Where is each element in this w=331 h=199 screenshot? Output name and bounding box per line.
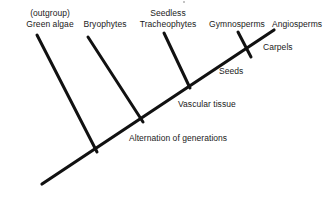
taxon-label-gymnosperms: Gymnosperms — [209, 19, 265, 30]
taxon-line-bryophytes: Bryophytes — [83, 19, 126, 30]
branch-green-algae — [37, 35, 97, 152]
taxon-line-angiosperms: Angiosperms — [272, 19, 322, 30]
taxon-label-bryophytes: Bryophytes — [83, 19, 126, 30]
taxon-line-gymnosperms: Gymnosperms — [209, 19, 265, 30]
trait-label-vascular-tissue: Vascular tissue — [178, 99, 236, 110]
taxon-line-green-algae: Green algae — [26, 19, 73, 30]
branch-bryophytes — [88, 37, 143, 122]
taxon-label-green-algae: (outgroup) Green algae — [26, 8, 73, 29]
branch-seedless-tracheophytes — [164, 33, 190, 88]
backbone-line — [42, 30, 274, 184]
tree-lines — [37, 30, 274, 184]
taxon-label-angiosperms: Angiosperms — [272, 19, 322, 30]
phylogenetic-tree-graphic — [0, 0, 331, 199]
top-edge-speck — [183, 1, 185, 3]
taxon-label-seedless-tracheophytes: Seedless Tracheophytes — [140, 8, 197, 29]
trait-label-carpels: Carpels — [263, 42, 293, 53]
taxon-line-seedless: Seedless — [140, 8, 197, 19]
cladogram-figure: (outgroup) Green algae Bryophytes Seedle… — [0, 0, 331, 199]
trait-label-alternation-of-generations: Alternation of generations — [129, 133, 227, 144]
taxon-line-tracheophytes: Tracheophytes — [140, 19, 197, 30]
trait-label-seeds: Seeds — [219, 66, 243, 77]
taxon-line-outgroup: (outgroup) — [26, 8, 73, 19]
